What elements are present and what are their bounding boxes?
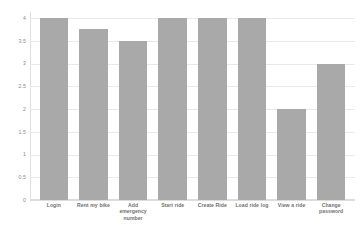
bar[interactable] (79, 29, 108, 200)
bar-series (30, 12, 355, 200)
x-axis-category-label: Create Ride (193, 202, 233, 208)
bar-slot (232, 12, 272, 200)
x-axis-category-label: Add emergency number (113, 202, 153, 221)
y-axis-tick-label: 3 (6, 60, 26, 66)
x-axis-category-labels: LoginRent my bikeAdd emergency numberSta… (30, 202, 355, 221)
bar-slot (153, 12, 193, 200)
bar[interactable] (119, 41, 148, 200)
bar-slot (34, 12, 74, 200)
bar[interactable] (277, 109, 306, 200)
x-axis-category-label: View a ride (272, 202, 312, 208)
x-axis-category-label: Rent my bike (74, 202, 114, 208)
x-axis-category-label: Change password (311, 202, 351, 215)
y-axis-tick-label: 4 (6, 15, 26, 21)
bar[interactable] (40, 18, 69, 200)
bar[interactable] (238, 18, 267, 200)
bar-slot (74, 12, 114, 200)
y-axis-tick-label: 1 (6, 151, 26, 157)
x-axis-category-label: Load ride log (232, 202, 272, 208)
y-axis-tick-label: 0 (6, 197, 26, 203)
gridline (30, 200, 355, 201)
x-axis-label-slot: Change password (311, 202, 351, 221)
x-axis-label-slot: View a ride (272, 202, 312, 221)
y-axis-tick-label: 0.5 (6, 174, 26, 180)
x-axis-label-slot: Create Ride (193, 202, 233, 221)
x-axis-category-label: Login (34, 202, 74, 208)
y-axis-tick-label: 3.5 (6, 38, 26, 44)
x-axis-label-slot: Rent my bike (74, 202, 114, 221)
bar-slot (272, 12, 312, 200)
y-axis-tick-label: 2 (6, 106, 26, 112)
bar-slot (311, 12, 351, 200)
x-axis-label-slot: Load ride log (232, 202, 272, 221)
x-axis-label-slot: Start ride (153, 202, 193, 221)
x-axis-label-slot: Add emergency number (113, 202, 153, 221)
bar[interactable] (317, 64, 346, 201)
bar-chart: 00.511.522.533.54 LoginRent my bikeAdd e… (0, 0, 364, 232)
x-axis-category-label: Start ride (153, 202, 193, 208)
x-axis-label-slot: Login (34, 202, 74, 221)
bar-slot (113, 12, 153, 200)
bar[interactable] (198, 18, 227, 200)
y-axis-tick-label: 1.5 (6, 129, 26, 135)
y-axis-tick-label: 2.5 (6, 83, 26, 89)
bar-slot (193, 12, 233, 200)
bar[interactable] (158, 18, 187, 200)
